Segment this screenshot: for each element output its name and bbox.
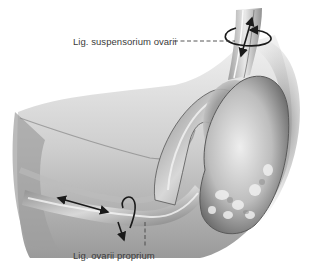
label-lig-ovarii-proprium: Lig. ovarii proprium — [73, 250, 155, 261]
label-lig-suspensorium-ovarii: Lig. suspensorium ovarii — [73, 36, 177, 47]
